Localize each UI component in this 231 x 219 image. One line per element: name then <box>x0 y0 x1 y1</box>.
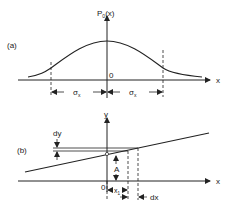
figure-b: (b) x y 0 dy A x1 <box>17 110 220 202</box>
gaussian-curve <box>28 41 202 77</box>
intercept-point <box>105 152 108 155</box>
sigma-label-left: σx <box>73 88 81 98</box>
y-axis-label-b: y <box>104 110 108 119</box>
x-axis-label-b: x <box>216 177 220 186</box>
A-label: A <box>114 165 120 174</box>
origin-label-b: 0 <box>101 183 106 192</box>
dx-label: dx <box>150 193 158 202</box>
x1-label: x1 <box>114 187 121 196</box>
origin-label-a: 0 <box>109 71 114 80</box>
y-axis-label-a: P0(x) <box>97 9 115 19</box>
sigma-label-right: σx <box>129 88 137 98</box>
x-axis-label-a: x <box>216 76 220 85</box>
diagram: (a) x P0(x) 0 σx σx (b) x <box>0 0 231 219</box>
dy-label: dy <box>53 129 61 138</box>
panel-label-a: (a) <box>7 41 17 50</box>
figure-a: (a) x P0(x) 0 σx σx <box>7 9 220 98</box>
panel-label-b: (b) <box>17 146 27 155</box>
